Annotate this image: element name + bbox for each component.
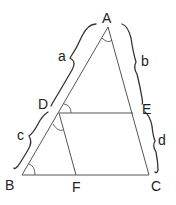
label-a: a [58,48,66,64]
label-c: c [17,127,24,143]
brace-a [51,24,96,106]
label-E: E [142,101,151,117]
label-A: A [102,10,112,26]
angle-mark-D-upper [64,104,71,113]
label-d: d [158,132,166,148]
brace-b [122,24,143,104]
angle-mark-D-lower [53,124,63,130]
angle-mark-B [29,164,35,175]
segment-DF [59,113,76,175]
label-b: b [141,53,149,69]
brace-d [145,112,158,173]
label-C: C [151,178,161,194]
label-F: F [72,179,81,195]
label-D: D [38,96,48,112]
angle-mark-A [102,38,112,42]
label-B: B [5,177,14,193]
triangle-diagram: A B C D E F a c b d [0,0,176,205]
